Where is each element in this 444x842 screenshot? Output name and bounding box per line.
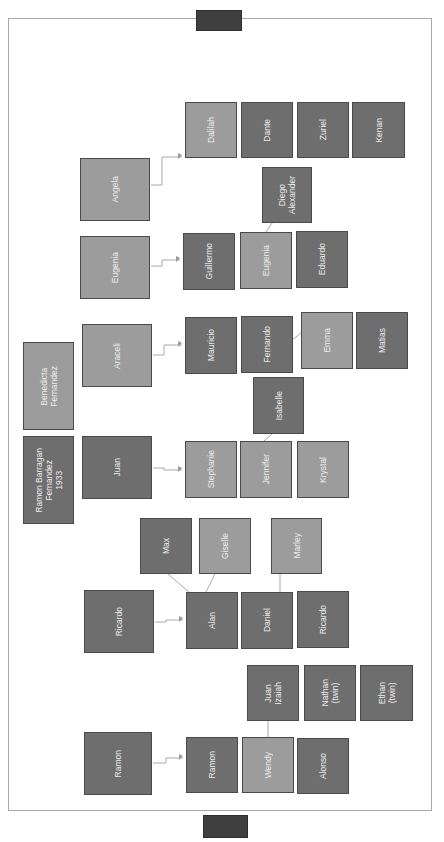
node-label: Angela [110,176,120,202]
node-bernadeta-fernandez[interactable]: Benedicta Fernandez [23,342,74,430]
node-eduardo[interactable]: Eduardo [296,231,348,288]
node-guillermo[interactable]: Guillermo [183,233,235,290]
node-label: Jennifer [261,454,271,484]
node-eugenia[interactable]: Eugenia [240,232,292,289]
node-alonso[interactable]: Alonso [297,738,349,794]
node-araceli[interactable]: Araceli [82,324,152,387]
node-ramon-parent[interactable]: Ramon [84,732,152,795]
node-label: Eugenia [110,252,120,283]
node-label: Ramon Barragan Fernandez 1933 [34,448,64,513]
node-label: Araceli [112,343,122,369]
node-eugenia-parent[interactable]: Eugenia [80,236,150,299]
node-label: Kenan [374,118,384,143]
node-label: Zuriel [318,119,328,140]
node-daniel[interactable]: Daniel [241,592,293,649]
node-label: Guillermo [204,243,214,279]
node-label: Matias [377,328,387,353]
node-label: Dante [262,119,272,142]
node-label: Fernando [262,326,272,362]
node-marley[interactable]: Marley [271,518,322,574]
node-ramon-barragan-fernandez[interactable]: Ramon Barragan Fernandez 1933 [23,436,74,524]
node-label: Ethan (twin) [377,682,397,704]
node-label: Diego Alexander [277,176,297,214]
node-ricardo-parent[interactable]: Ricardo [84,590,154,653]
node-ramon[interactable]: Ramon [186,737,238,793]
node-label: Eugenia [261,245,271,276]
node-label: Giselle [220,533,230,559]
node-nathan-twin[interactable]: Nathan (twin) [304,665,356,721]
node-label: Wendy [263,752,273,778]
node-diego-alexander[interactable]: Diego Alexander [262,167,312,223]
node-dalilah[interactable]: Dalilah [185,102,237,158]
node-angela[interactable]: Angela [80,158,150,221]
node-ethan-twin[interactable]: Ethan (twin) [360,665,413,721]
node-label: Krystal [318,457,328,483]
node-label: Max [161,538,171,554]
node-jennifer[interactable]: Jennifer [240,441,292,498]
node-ricardo[interactable]: Ricardo [297,591,349,648]
node-dante[interactable]: Dante [241,102,293,158]
node-label: Ricardo [318,605,328,634]
node-label: Marley [292,533,302,559]
node-kenan[interactable]: Kenan [352,102,405,158]
node-label: Stephanie [206,450,216,488]
node-stephanie[interactable]: Stephanie [185,441,237,498]
node-label: Alan [207,612,217,629]
node-juan[interactable]: Juan [82,436,152,499]
node-max[interactable]: Max [140,518,192,574]
node-isabelle[interactable]: Isabelle [253,377,304,434]
node-label: Isabelle [274,391,284,420]
node-mauricio[interactable]: Mauricio [185,317,237,374]
node-label: Alonso [318,753,328,779]
bottom-tab-handle[interactable] [203,815,248,838]
node-zuriel[interactable]: Zuriel [297,102,349,158]
node-label: Ricardo [114,607,124,636]
node-alan[interactable]: Alan [186,592,238,649]
node-emma[interactable]: Emma [301,312,353,369]
node-label: Juan Izaiah [263,682,283,705]
node-label: Ramon [113,750,123,777]
node-label: Nathan (twin) [320,679,340,706]
node-label: Dalilah [206,117,216,143]
top-tab-handle[interactable] [196,10,242,31]
node-label: Eduardo [317,243,327,275]
node-matias[interactable]: Matias [356,312,408,369]
node-label: Mauricio [206,329,216,361]
node-label: Ramon [207,751,217,778]
node-label: Juan [112,458,122,476]
node-label: Benedicta Fernandez [39,366,59,407]
node-giselle[interactable]: Giselle [199,518,251,574]
node-wendy[interactable]: Wendy [242,737,294,793]
node-krystal[interactable]: Krystal [297,441,349,498]
node-fernando[interactable]: Fernando [241,316,293,373]
node-label: Emma [322,328,332,353]
node-juan-izaiah[interactable]: Juan Izaiah [247,665,299,721]
node-label: Daniel [262,608,272,632]
